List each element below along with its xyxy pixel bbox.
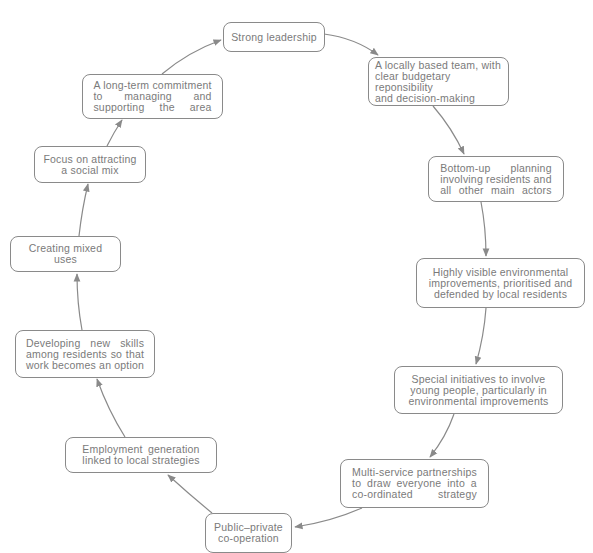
node-long-term-commitment: A long-term commitment to managing and s… xyxy=(82,74,223,119)
node-social-mix: Focus on attracting a social mix xyxy=(34,146,146,183)
arrow-skills-to-mixed-uses xyxy=(77,274,82,330)
arrow-bottom-up-to-environment xyxy=(481,202,486,256)
arrow-employment-to-skills xyxy=(97,379,125,437)
node-developing-skills: Developing new skills among residents so… xyxy=(15,330,155,378)
node-multi-service-partnerships: Multi-service partnerships to draw every… xyxy=(340,459,489,508)
node-mixed-uses: Creating mixed uses xyxy=(10,236,121,272)
arrow-leadership-to-team xyxy=(324,34,378,55)
arrow-multi-service-to-public-private xyxy=(295,508,362,527)
arrow-environment-to-youth xyxy=(476,308,486,364)
arrow-commitment-to-leadership xyxy=(162,40,221,74)
arrow-public-private-to-employment xyxy=(168,475,212,513)
node-strong-leadership: Strong leadership xyxy=(223,22,325,52)
node-bottom-up-planning: Bottom-up planning involving residents a… xyxy=(428,156,564,202)
arrow-mixed-uses-to-social-mix xyxy=(79,184,88,236)
node-locally-based-team: A locally based team, with clear budgeta… xyxy=(368,57,509,106)
arrow-youth-to-multi-service xyxy=(430,414,454,457)
node-environmental-improvements: Highly visible environmental improvement… xyxy=(416,258,585,308)
arrow-team-to-bottom-up xyxy=(433,106,464,154)
node-youth-initiatives: Special initiatives to involve young peo… xyxy=(394,366,563,414)
arrow-social-mix-to-commitment xyxy=(107,120,122,146)
node-public-private: Public–private co-operation xyxy=(205,513,292,553)
node-employment-generation: Employment generation linked to local st… xyxy=(65,437,217,473)
